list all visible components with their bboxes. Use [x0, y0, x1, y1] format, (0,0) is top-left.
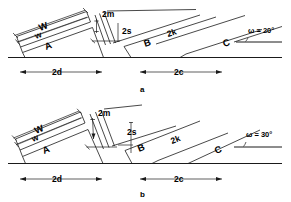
panel-b-label-C: C — [213, 143, 223, 156]
panel-b-label-2k: 2k — [169, 133, 182, 146]
panel-a-caption: a — [140, 85, 145, 94]
panel-b-diagram: W w A 2m 2s — [0, 101, 291, 202]
panel-a-label-2d: 2d — [52, 67, 62, 77]
panel-a-label-A: A — [43, 39, 53, 52]
panel-a-label-2c: 2c — [174, 67, 184, 77]
panel-a-angle-label: ω = 20° — [248, 26, 274, 35]
panel-a-label-2s: 2s — [122, 26, 132, 36]
panel-a-diagram: W w A 2m 2s — [0, 0, 291, 101]
panel-b-label-2s: 2s — [127, 127, 137, 137]
figure-root: W w A 2m 2s — [0, 0, 291, 202]
panel-b-block-b — [104, 105, 228, 164]
panel-a-label-2m: 2m — [102, 9, 115, 19]
panel-a-dim-2m — [94, 19, 98, 33]
panel-a-dim-w — [16, 17, 88, 44]
panel-a-block-a — [17, 12, 104, 58]
panel-b-caption: b — [140, 190, 145, 199]
panel-b-dim-w — [15, 118, 82, 147]
panel-a-label-2k: 2k — [166, 26, 178, 39]
panel-b-label-2d: 2d — [52, 174, 62, 184]
panel-b-label-2c: 2c — [174, 174, 184, 184]
panel-a-label-C: C — [221, 36, 231, 49]
panel-b-block-a — [16, 112, 104, 164]
panel-b-label-2m: 2m — [98, 108, 111, 118]
panel-b-dim-2s — [85, 122, 133, 153]
panel-b-angle-label: ω = 30° — [246, 130, 272, 139]
panel-b-angle-mark — [234, 142, 282, 147]
